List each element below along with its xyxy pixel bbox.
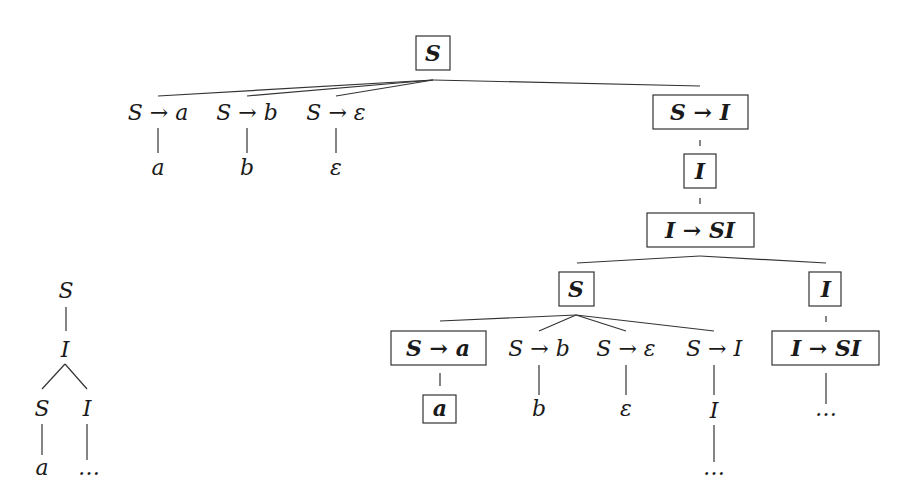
node-s2_b: S → b — [508, 336, 570, 361]
small-node-s-child: S — [34, 396, 49, 421]
edge-i_si-i2 — [700, 256, 826, 263]
node-s2_eps: S → ε — [596, 336, 655, 361]
node-i2: I — [820, 276, 832, 302]
node-root: S — [425, 40, 441, 66]
node-s2_i: S → I — [686, 336, 743, 361]
node-i2_si: I → SI — [790, 335, 862, 361]
leaf-b: b — [240, 155, 254, 180]
edge-root-s_a — [158, 80, 433, 96]
node-i_si: I → SI — [664, 217, 736, 243]
leaf-a: a — [151, 155, 164, 180]
node-s2_a: S → a — [406, 335, 470, 361]
parse-forest-diagram: S S → a S → b S → ε S → I a b ε I I → SI… — [0, 0, 916, 496]
edge-root-s_i — [433, 80, 700, 86]
leaf2-a: a — [433, 395, 447, 421]
node-s2: S — [568, 276, 584, 302]
edge-s2-s2_b — [539, 315, 576, 331]
small-node-i: I — [60, 337, 71, 362]
node-i1: I — [694, 158, 706, 184]
node-s_eps: S → ε — [306, 100, 365, 125]
small-node-s: S — [58, 278, 73, 303]
edge-small-i-i — [65, 364, 87, 389]
leaf2-i: I — [709, 398, 720, 423]
highlight-boxes — [391, 36, 879, 423]
node-s_a: S → a — [128, 100, 189, 125]
node-s_i: S → I — [670, 99, 731, 125]
leaf2-b: b — [532, 396, 546, 421]
small-node-i-child: I — [82, 396, 93, 421]
labels: S S → a S → b S → ε S → I a b ε I I → SI… — [34, 40, 861, 480]
edge-small-i-s — [42, 364, 65, 389]
edge-s2-s2_i — [576, 315, 714, 331]
edge-i_si-s2 — [577, 256, 700, 263]
leaf-eps: ε — [330, 155, 342, 180]
edge-s2-s2_a — [440, 315, 576, 321]
small-node-a: a — [35, 455, 48, 480]
dots-s2i: … — [703, 455, 725, 480]
node-s_b: S → b — [216, 100, 278, 125]
leaf2-eps: ε — [620, 396, 632, 421]
small-node-dots: … — [78, 455, 100, 480]
edge-root-s_b — [247, 80, 433, 96]
dots-i2: … — [815, 396, 837, 421]
